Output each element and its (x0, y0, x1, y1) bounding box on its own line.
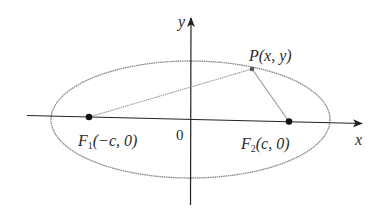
focus-1-point (86, 114, 93, 121)
point-p-coords: (x, y) (259, 47, 292, 65)
ellipse-foci-diagram: y x 0 P(x, y) F1(−c, 0) F2(c, 0) (0, 0, 381, 209)
point-p (250, 67, 255, 72)
focus-2-name: F (240, 135, 251, 152)
point-p-label: P(x, y) (248, 47, 292, 65)
segment-p-f2 (252, 69, 289, 122)
focus-2-label: F2(c, 0) (240, 135, 290, 154)
focus-2-point (286, 118, 293, 125)
segment-f1-p (89, 69, 252, 117)
focus-1-coords: (−c, 0) (93, 132, 138, 150)
focus-1-name: F (77, 132, 88, 149)
focus-1-label: F1(−c, 0) (77, 132, 137, 151)
point-p-name: P (248, 47, 259, 64)
focus-2-coords: (c, 0) (256, 135, 290, 153)
x-axis (27, 116, 362, 124)
origin-label: 0 (176, 127, 184, 143)
x-axis-label: x (354, 131, 362, 148)
y-axis (191, 18, 192, 205)
y-axis-label: y (176, 13, 186, 31)
